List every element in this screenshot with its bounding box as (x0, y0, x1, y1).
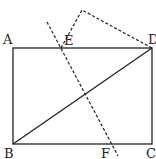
label-d: D (148, 32, 156, 47)
label-e: E (64, 33, 74, 48)
label-c: C (146, 146, 156, 159)
label-a: A (2, 32, 13, 47)
geometry-diagram: A E D B F C (0, 0, 156, 159)
label-b: B (4, 146, 14, 159)
diagonal-bd (13, 48, 152, 144)
fold-line-ef (47, 22, 118, 156)
folded-edge (61, 10, 152, 48)
label-f: F (101, 146, 110, 159)
